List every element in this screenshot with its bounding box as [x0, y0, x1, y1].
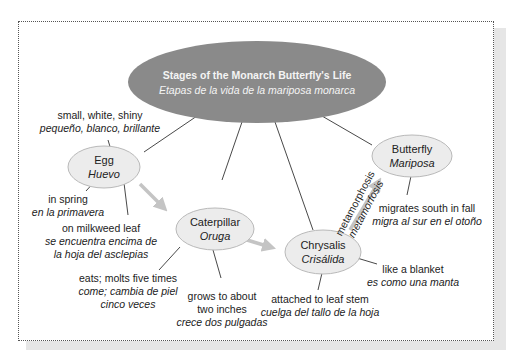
node-egg: Egg Huevo	[88, 153, 120, 181]
detail-butterfly-migrates: migrates south in fall migra al sur en e…	[372, 202, 482, 228]
detail-egg-location: on milkweed leaf se encuentra encima de …	[45, 222, 157, 261]
node-caterpillar: Caterpillar Oruga	[190, 215, 240, 243]
diagram-title: Stages of the Monarch Butterfly's Life E…	[159, 68, 355, 98]
detail-chrysalis-blanket: like a blanket es como una manta	[367, 263, 459, 289]
arrow-caterpillar-to-chrysalis	[247, 240, 270, 247]
line-title-butterfly	[322, 116, 372, 145]
line-cat-detail1	[159, 247, 180, 270]
detail-caterpillar-eats: eats; molts five times come; cambia de p…	[78, 272, 177, 311]
line-but-detail1	[407, 176, 411, 195]
arrow-egg-to-caterpillar	[140, 184, 163, 207]
detail-egg-appearance: small, white, shiny pequeño, blanco, bri…	[40, 109, 160, 135]
detail-chrysalis-attached: attached to leaf stem cuelga del tallo d…	[261, 293, 380, 319]
line-egg-detail3	[124, 183, 128, 215]
node-chrysalis: Chrysalis Crisálida	[300, 238, 345, 266]
node-butterfly: Butterfly Mariposa	[389, 142, 434, 170]
line-title-caterpillar	[222, 122, 242, 180]
detail-caterpillar-size: grows to about two inches crece dos pulg…	[176, 290, 267, 329]
line-chr-detail1	[318, 273, 322, 290]
detail-egg-season: in spring en la primavera	[32, 193, 104, 219]
line-cat-detail2	[213, 250, 221, 278]
line-title-chrysalis	[275, 122, 313, 230]
